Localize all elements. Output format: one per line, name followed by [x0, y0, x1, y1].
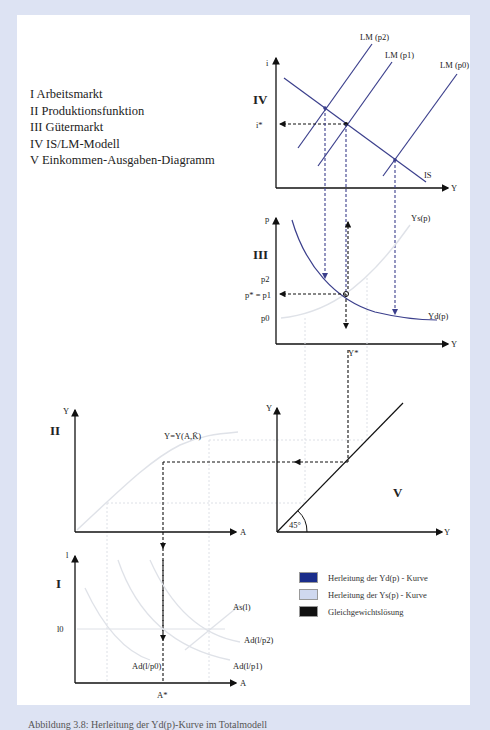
- ad-p1-label: Ad(l/p1): [233, 661, 262, 671]
- iv-istar-label: i*: [256, 120, 263, 130]
- ad-p0-label: Ad(l/p0): [132, 661, 161, 671]
- iii-roman: III: [253, 247, 268, 262]
- panel-ii: Y A II Y=Y(A,K̄): [50, 406, 247, 537]
- key-ys-derivation: Herleitung der Ys(p) - Kurve: [299, 589, 427, 600]
- is-label: IS: [424, 170, 432, 180]
- ad-p2-label: Ad(l/p2): [244, 635, 273, 645]
- equilibrium-swatch: [299, 606, 318, 617]
- astar-label: A*: [157, 690, 167, 700]
- ad-p0-curve: [85, 588, 150, 660]
- is-curve: [284, 78, 426, 182]
- angle-label: 45°: [289, 520, 301, 530]
- key-equilibrium: Gleichgewichtslösung: [299, 606, 404, 617]
- panel-i: l A I l0 As(l) Ad(l/p2) Ad(l/p1) Ad(l/p0…: [56, 550, 273, 700]
- i-roman: I: [56, 576, 61, 591]
- ii-y-label: Y: [63, 406, 69, 416]
- key-ys-label: Herleitung der Ys(p) - Kurve: [328, 590, 427, 600]
- panel-iv: i Y IV i* LM (p2) LM (p1) LM (p0) IS: [253, 32, 469, 193]
- ii-roman: II: [50, 423, 60, 438]
- v-roman: V: [393, 485, 403, 500]
- iv-x-label: Y: [451, 183, 457, 193]
- iv-roman: IV: [253, 92, 268, 107]
- l0-label: l0: [57, 624, 64, 634]
- yd-swatch: [299, 572, 318, 583]
- iv-y-label: i: [266, 58, 269, 68]
- lm-p1-curve: [318, 62, 392, 166]
- yd-label: Yd(p): [428, 311, 448, 321]
- panel-v: Y Y V 45°: [266, 403, 450, 537]
- key-yd-derivation: Herleitung der Yd(p) - Kurve: [299, 572, 428, 583]
- iii-y-label: p: [265, 214, 269, 224]
- production-function: [77, 432, 238, 530]
- key-yd-label: Herleitung der Yd(p) - Kurve: [328, 573, 428, 583]
- ys-swatch: [299, 589, 318, 600]
- lm-p2-label: LM (p2): [360, 32, 389, 42]
- as-label: As(l): [233, 602, 251, 612]
- 45-degree-line: [277, 403, 403, 532]
- ys-label: Ys(p): [411, 213, 431, 223]
- i-y-label: l: [66, 550, 69, 560]
- panel-iii: p Y III p2 p* = p1 p0 Ys(p) Yd(p) Y*: [245, 213, 457, 358]
- i-x-label: A: [240, 678, 247, 688]
- iii-x-label: Y: [451, 339, 457, 349]
- ii-x-label: A: [240, 527, 247, 537]
- ad-p1-curve: [118, 560, 230, 660]
- pstar-label: p* = p1: [245, 290, 271, 300]
- lm-p1-label: LM (p1): [385, 50, 414, 60]
- v-y-label: Y: [266, 403, 272, 413]
- yd-curve: [292, 220, 437, 320]
- v-x-label: Y: [444, 527, 450, 537]
- production-function-label: Y=Y(A,K̄): [164, 431, 201, 441]
- ystar-label: Y*: [348, 348, 358, 358]
- key-equilibrium-label: Gleichgewichtslösung: [328, 607, 404, 617]
- as-curve: [185, 605, 240, 650]
- p2-label: p2: [261, 274, 270, 284]
- lm-p0-label: LM (p0): [440, 60, 469, 70]
- p0-label: p0: [261, 313, 270, 323]
- figure-caption: Abbildung 3.8: Herleitung der Yd(p)-Kurv…: [28, 719, 267, 730]
